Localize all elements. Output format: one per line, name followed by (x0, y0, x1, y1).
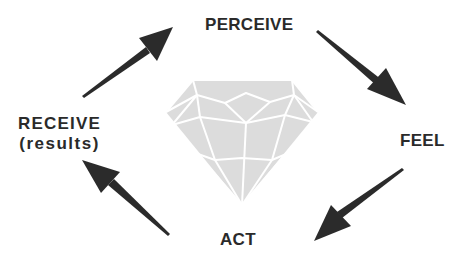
arrow-act-to-receive-icon (82, 160, 170, 236)
node-receive: RECEIVE (results) (18, 115, 101, 152)
cycle-diagram: PERCEIVE FEEL ACT RECEIVE (results) (0, 0, 469, 265)
arrow-feel-to-act-icon (314, 168, 404, 241)
arrow-perceive-to-feel-icon (316, 30, 406, 105)
node-receive-sublabel: (results) (18, 135, 101, 152)
node-perceive: PERCEIVE (205, 16, 293, 33)
node-feel: FEEL (400, 132, 445, 149)
diamond-icon (166, 80, 318, 205)
arrow-receive-to-perceive-icon (82, 27, 173, 98)
node-act: ACT (220, 231, 256, 248)
node-receive-label: RECEIVE (18, 114, 101, 133)
